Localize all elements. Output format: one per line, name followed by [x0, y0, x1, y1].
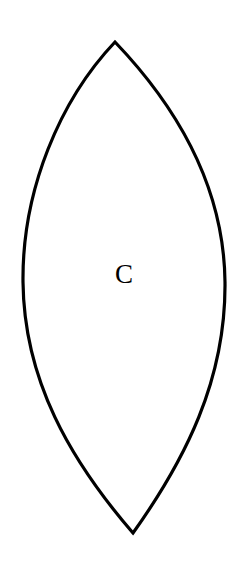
diagram-canvas: C [0, 0, 230, 561]
shape-label: C [115, 259, 133, 289]
